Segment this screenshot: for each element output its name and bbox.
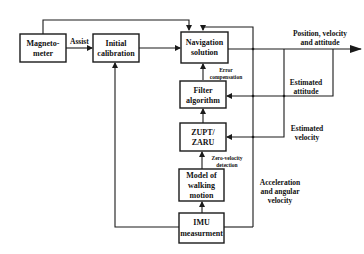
estimated-velocity-label: velocity — [295, 133, 320, 142]
zero-velocity-label: detection — [216, 162, 237, 168]
box-label: Initial — [106, 39, 128, 48]
box-label: algorithm — [186, 96, 220, 105]
zupt-zaru-box: ZUPT/ ZARU — [180, 123, 226, 151]
error-compensation-label: Error — [219, 67, 233, 73]
box-label: motion — [190, 191, 215, 200]
box-label: ZUPT/ — [191, 128, 215, 137]
zero-velocity-label: Zero-velocity — [211, 155, 242, 161]
magnetometer-to-navigation-arrow — [43, 20, 189, 34]
imu-to-calibration-arrow — [115, 63, 179, 227]
walking-model-box: Model of walking motion — [179, 169, 224, 201]
navigation-solution-box: Navigation solution — [181, 32, 228, 63]
output-label: and attitude — [301, 38, 341, 47]
box-label: meter — [33, 49, 53, 58]
box-label: Magneto- — [27, 39, 60, 48]
estimated-attitude-label: attitude — [294, 87, 320, 96]
filter-algorithm-box: Filter algorithm — [180, 81, 226, 108]
imu-measurement-box: IMU measurment — [179, 213, 224, 243]
estimated-attitude-label: Estimated — [290, 78, 323, 87]
imu-navigation-block-diagram: Magneto- meter Initial calibration Navig… — [0, 0, 364, 254]
estimated-velocity-arrow — [227, 49, 284, 137]
box-label: ZARU — [192, 138, 215, 147]
acceleration-label: and angular — [261, 187, 301, 196]
acceleration-label: velocity — [268, 196, 293, 205]
acceleration-label: Acceleration — [260, 178, 301, 187]
box-label: Model of — [186, 171, 217, 180]
output-label: Position, velocity — [293, 29, 347, 38]
box-label: measurment — [180, 229, 223, 238]
box-label: Filter — [193, 86, 213, 95]
error-compensation-label: compensation — [210, 74, 242, 80]
box-label: Navigation — [186, 38, 224, 47]
box-label: calibration — [97, 49, 135, 58]
assist-label: Assist — [70, 37, 89, 46]
magnetometer-box: Magneto- meter — [20, 34, 66, 62]
box-label: walking — [188, 181, 215, 190]
estimated-velocity-label: Estimated — [291, 124, 324, 133]
initial-calibration-box: Initial calibration — [93, 34, 139, 62]
box-label: solution — [191, 48, 219, 57]
box-label: IMU — [193, 218, 210, 227]
